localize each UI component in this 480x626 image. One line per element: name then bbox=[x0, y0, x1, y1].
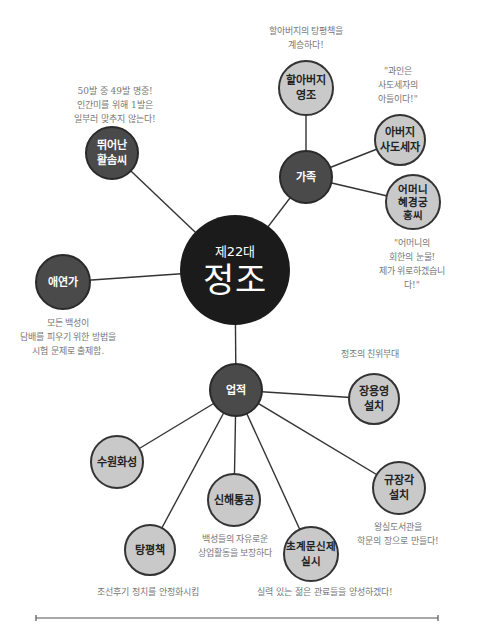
center-title: 정조 bbox=[203, 260, 267, 300]
node-chogye: 초계문신제 실시 bbox=[283, 526, 339, 582]
node-smoker: 애연가 bbox=[35, 254, 91, 310]
node-label: 수원화성 bbox=[97, 455, 137, 470]
node-label: 아버지 사도세자 bbox=[380, 125, 420, 155]
note-father: "과인은 사도세자의 아들이다!" bbox=[378, 64, 418, 106]
node-label: 애연가 bbox=[48, 275, 78, 290]
node-archery: 뛰어난 활솜씨 bbox=[85, 126, 139, 180]
note-sinhae: 백성들의 자유로운 상업활동을 보장하다 bbox=[198, 532, 273, 560]
node-father: 아버지 사도세자 bbox=[374, 114, 426, 166]
node-label: 신해통공 bbox=[214, 493, 254, 508]
node-label: 업적 bbox=[226, 383, 246, 398]
center-node-jeongjo: 제22대 정조 bbox=[180, 215, 290, 325]
node-sinhae: 신해통공 bbox=[207, 473, 261, 527]
node-label: 탕평책 bbox=[135, 543, 165, 558]
node-kyujanggak: 규장각 설치 bbox=[372, 461, 426, 515]
note-smoker: 모든 백성이 담배를 피우기 위한 방법을 시험 문제로 출제함. bbox=[20, 316, 117, 358]
node-label: 어머니 혜경궁 홍씨 bbox=[398, 183, 428, 222]
node-tangpyeong: 탕평책 bbox=[124, 524, 176, 576]
note-chogye: 실력 있는 젊은 관료들을 양성하겠다! bbox=[257, 585, 392, 599]
node-label: 규장각 설치 bbox=[384, 473, 414, 503]
note-tangpyeong: 조선후기 정치를 안정화시킴 bbox=[97, 585, 199, 599]
center-subtitle: 제22대 bbox=[215, 244, 256, 260]
node-jangyongyeong: 장용영 설치 bbox=[348, 373, 400, 425]
node-family: 가족 bbox=[279, 150, 333, 204]
note-jangyongyeong: 정조의 친위부대 bbox=[341, 347, 400, 361]
node-label: 장용영 설치 bbox=[359, 384, 389, 414]
note-archery: 50발 중 49발 명중! 인간미를 위해 1발은 일부러 맞추지 않는다! bbox=[74, 84, 155, 126]
node-label: 할아버지 영조 bbox=[286, 73, 326, 103]
node-label: 초계문신제 실시 bbox=[286, 539, 336, 569]
node-label: 뛰어난 활솜씨 bbox=[97, 138, 127, 168]
node-achievements: 업적 bbox=[209, 363, 263, 417]
timeline-axis bbox=[36, 615, 438, 621]
note-grandfather: 할아버지의 탕평책을 계승하다! bbox=[269, 24, 344, 52]
node-suwon: 수원화성 bbox=[90, 435, 144, 489]
node-grandfather: 할아버지 영조 bbox=[278, 60, 334, 116]
note-kyujanggak: 왕실도서관을 학문의 장으로 만들다! bbox=[357, 520, 438, 548]
note-mother: "어머니의 회한의 눈물! 제가 위로하겠습니다!" bbox=[378, 236, 446, 292]
node-mother: 어머니 혜경궁 홍씨 bbox=[385, 174, 441, 230]
node-label: 가족 bbox=[296, 170, 316, 185]
